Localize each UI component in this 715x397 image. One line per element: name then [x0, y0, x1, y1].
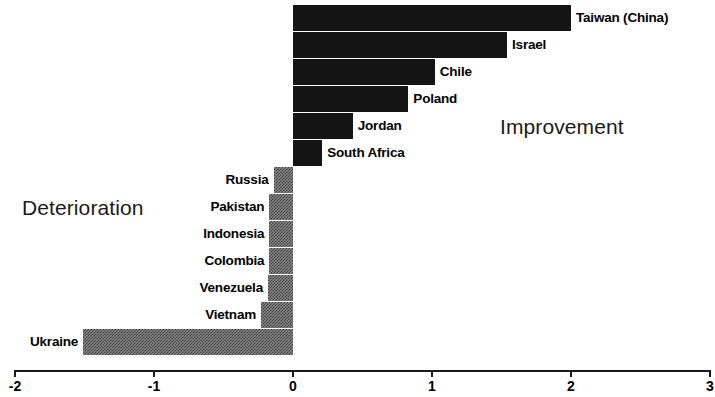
bar-row: Venezuela — [0, 275, 715, 301]
bar-label-pakistan: Pakistan — [210, 194, 264, 220]
x-tick-label: 3 — [706, 378, 714, 394]
x-tick-label: 2 — [567, 378, 575, 394]
bar-venezuela — [268, 275, 293, 301]
bar-chile — [293, 59, 435, 85]
bar-label-taiwan-china: Taiwan (China) — [576, 5, 668, 31]
bar-row: Ukraine — [0, 329, 715, 355]
x-axis-line — [15, 370, 710, 372]
bar-label-jordan: Jordan — [358, 113, 402, 139]
bar-label-chile: Chile — [440, 59, 472, 85]
bar-russia — [274, 167, 293, 193]
x-tick — [292, 370, 294, 377]
x-tick — [14, 370, 16, 377]
bar-row: South Africa — [0, 140, 715, 166]
x-tick — [709, 370, 711, 377]
bar-label-venezuela: Venezuela — [199, 275, 263, 301]
bar-label-poland: Poland — [413, 86, 457, 112]
bar-row: Taiwan (China) — [0, 5, 715, 31]
bar-label-south-africa: South Africa — [327, 140, 404, 166]
bar-label-vietnam: Vietnam — [205, 302, 256, 328]
bar-label-russia: Russia — [225, 167, 268, 193]
bar-row: Israel — [0, 32, 715, 58]
x-tick-label: -1 — [148, 378, 160, 394]
bar-row: Russia — [0, 167, 715, 193]
x-tick-label: 1 — [428, 378, 436, 394]
bar-poland — [293, 86, 408, 112]
bar-vietnam — [261, 302, 293, 328]
bar-israel — [293, 32, 507, 58]
bar-label-ukraine: Ukraine — [30, 329, 78, 355]
annotation-improvement: Improvement — [500, 115, 624, 139]
bar-chart: Taiwan (China)IsraelChilePolandJordanSou… — [0, 0, 715, 397]
annotation-deterioration: Deterioration — [22, 196, 144, 220]
bar-south-africa — [293, 140, 322, 166]
x-tick-label: -2 — [9, 378, 21, 394]
bar-row: Poland — [0, 86, 715, 112]
bar-ukraine — [83, 329, 293, 355]
bar-row: Indonesia — [0, 221, 715, 247]
bar-colombia — [269, 248, 293, 274]
bar-label-colombia: Colombia — [204, 248, 264, 274]
bar-taiwan-china — [293, 5, 571, 31]
plot-area: Taiwan (China)IsraelChilePolandJordanSou… — [0, 0, 715, 362]
bar-label-israel: Israel — [512, 32, 546, 58]
x-tick — [570, 370, 572, 377]
bar-row: Chile — [0, 59, 715, 85]
bar-pakistan — [269, 194, 293, 220]
x-tick — [153, 370, 155, 377]
x-tick — [431, 370, 433, 377]
bar-jordan — [293, 113, 353, 139]
bar-label-indonesia: Indonesia — [203, 221, 264, 247]
bar-row: Vietnam — [0, 302, 715, 328]
bar-indonesia — [269, 221, 293, 247]
bar-row: Colombia — [0, 248, 715, 274]
x-tick-label: 0 — [289, 378, 297, 394]
